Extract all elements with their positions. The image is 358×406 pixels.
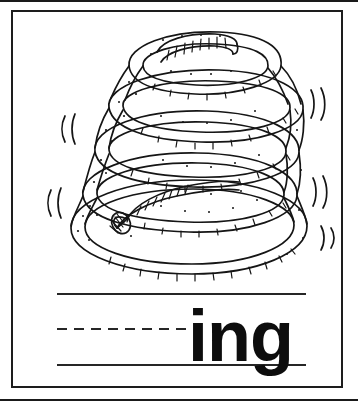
motion-mark-left-upper-2: [72, 114, 75, 144]
spring-illustration: [11, 10, 343, 290]
page-top-edge: [0, 0, 358, 2]
writing-line-top: [57, 293, 306, 295]
flashcard-worksheet: ing: [0, 0, 358, 406]
coiled-spring-drawing: [11, 10, 343, 290]
motion-mark-right-middle-1: [313, 178, 316, 206]
motion-mark-right-lower-1: [321, 226, 324, 250]
motion-mark-right-lower-2: [331, 228, 334, 248]
motion-mark-left-lower-2: [58, 188, 61, 218]
motion-mark-right-upper-1: [311, 90, 314, 118]
motion-mark-right-upper-2: [321, 88, 325, 120]
word-ending-text: ing: [188, 300, 318, 400]
motion-mark-right-middle-2: [323, 176, 327, 208]
motion-mark-left-lower-1: [48, 190, 51, 216]
writing-line-middle-dashed: [57, 328, 190, 330]
motion-mark-left-upper-1: [62, 116, 65, 142]
